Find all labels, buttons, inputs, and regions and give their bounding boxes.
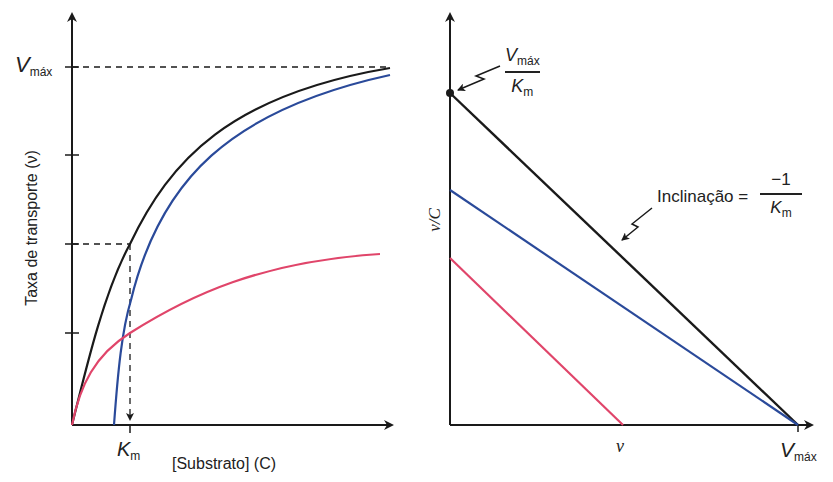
intercept-annotation: Vmáx Km	[505, 45, 540, 99]
vmax-x-tick-label: Vmáx	[780, 438, 817, 464]
curve-black	[72, 68, 390, 425]
intercept-dot	[446, 89, 454, 97]
right-y-axis-label: ν/C	[425, 208, 445, 232]
curve-blue	[114, 75, 390, 425]
line-red	[450, 258, 623, 425]
fraction-bar	[760, 193, 802, 195]
slope-label: Inclinação =	[657, 187, 748, 207]
curve-red	[72, 254, 380, 425]
left-chart	[65, 14, 392, 433]
intercept-numerator: Vmáx	[505, 45, 540, 68]
left-y-axis-label: Taxa de transporte (ν)	[23, 150, 41, 306]
charts-canvas	[0, 0, 833, 482]
slope-fraction: −1 Km	[760, 170, 802, 220]
intercept-pointer	[458, 66, 500, 90]
vmax-label: Vmáx	[15, 52, 52, 79]
line-black	[450, 93, 798, 425]
fraction-bar	[505, 71, 540, 73]
nu-tick-label: ν	[616, 436, 624, 457]
intercept-denominator: Km	[511, 76, 533, 99]
left-x-axis-label: [Substrato] (C)	[172, 455, 276, 473]
slope-pointer	[622, 208, 652, 240]
slope-numerator: −1	[771, 170, 790, 190]
right-chart	[446, 14, 812, 432]
slope-denominator: Km	[770, 198, 791, 220]
km-label: Km	[117, 438, 140, 463]
